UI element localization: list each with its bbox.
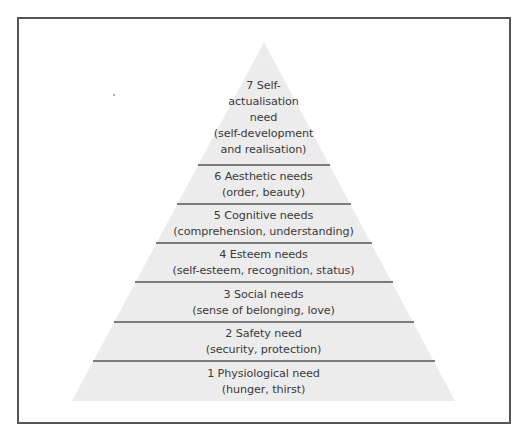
level-7-line-3: need <box>0 110 527 126</box>
level-2-title: 2 Safety need <box>0 326 527 342</box>
level-1-label: 1 Physiological need (hunger, thirst) <box>0 366 527 398</box>
level-2-examples: (security, protection) <box>0 342 527 358</box>
level-4-title: 4 Esteem needs <box>0 247 527 263</box>
level-3-title: 3 Social needs <box>0 287 527 303</box>
level-6-title: 6 Aesthetic needs <box>0 169 527 185</box>
level-7-label: 7 Self- actualisation need (self-develop… <box>0 78 527 158</box>
level-5-label: 5 Cognitive needs (comprehension, unders… <box>0 208 527 240</box>
level-3-label: 3 Social needs (sense of belonging, love… <box>0 287 527 319</box>
level-4-examples: (self-esteem, recognition, status) <box>0 263 527 279</box>
level-5-examples: (comprehension, understanding) <box>0 224 527 240</box>
level-7-line-1: 7 Self- <box>0 78 527 94</box>
level-1-title: 1 Physiological need <box>0 366 527 382</box>
level-6-label: 6 Aesthetic needs (order, beauty) <box>0 169 527 201</box>
level-1-examples: (hunger, thirst) <box>0 382 527 398</box>
level-5-title: 5 Cognitive needs <box>0 208 527 224</box>
level-3-examples: (sense of belonging, love) <box>0 303 527 319</box>
level-4-label: 4 Esteem needs (self-esteem, recognition… <box>0 247 527 279</box>
level-2-label: 2 Safety need (security, protection) <box>0 326 527 358</box>
level-7-line-5: and realisation) <box>0 142 527 158</box>
level-7-line-4: (self-development <box>0 126 527 142</box>
level-6-examples: (order, beauty) <box>0 185 527 201</box>
level-7-line-2: actualisation <box>0 94 527 110</box>
